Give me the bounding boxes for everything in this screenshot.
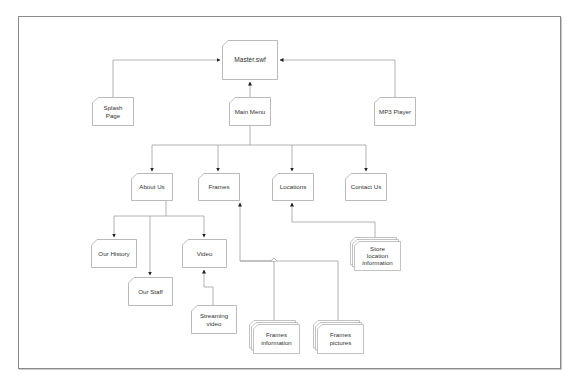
node-label: Streaming video xyxy=(198,312,230,326)
node-mp3-player[interactable]: MP3 Player xyxy=(374,97,416,126)
node-frames-information[interactable]: Frames information xyxy=(249,320,300,354)
node-label: Store location information xyxy=(360,245,395,267)
node-label: Frames information xyxy=(259,331,294,345)
node-streaming-video[interactable]: Streaming video xyxy=(191,305,237,334)
node-about-us[interactable]: About Us xyxy=(131,173,173,201)
node-splash-page[interactable]: Splash Page xyxy=(92,97,134,126)
node-label: Main Menu xyxy=(233,108,268,115)
node-store-location-information[interactable]: Store location information xyxy=(350,237,401,271)
node-frames-pictures[interactable]: Frames pictures xyxy=(313,320,364,354)
node-main-menu[interactable]: Main Menu xyxy=(229,97,271,126)
node-label: Frames pictures xyxy=(328,331,354,345)
node-label: Frames xyxy=(207,183,232,190)
node-contact-us[interactable]: Contact Us xyxy=(345,173,387,201)
node-frames[interactable]: Frames xyxy=(198,173,240,201)
node-locations[interactable]: Locations xyxy=(272,173,314,201)
node-label: Video xyxy=(195,250,215,257)
node-label: Locations xyxy=(278,183,309,190)
node-label: About Us xyxy=(137,183,166,190)
node-label: MP3 Player xyxy=(377,108,413,115)
node-our-history[interactable]: Our History xyxy=(91,239,137,268)
node-video[interactable]: Video xyxy=(182,239,227,268)
node-label: Our History xyxy=(96,250,131,257)
node-master-swf[interactable]: Master.swf xyxy=(222,40,278,80)
node-label: Contact Us xyxy=(349,183,384,190)
node-our-staff[interactable]: Our Staff xyxy=(128,277,173,306)
node-label: Our Staff xyxy=(136,288,165,295)
node-label: Master.swf xyxy=(232,56,268,63)
node-label: Splash Page xyxy=(102,104,125,118)
